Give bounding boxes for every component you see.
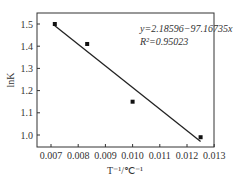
svg-text:0.012: 0.012 xyxy=(176,150,199,161)
data-point xyxy=(53,22,57,26)
svg-text:0.007: 0.007 xyxy=(40,150,63,161)
data-point xyxy=(131,100,135,104)
svg-text:1.5: 1.5 xyxy=(21,19,34,30)
svg-text:0.013: 0.013 xyxy=(203,150,226,161)
svg-text:1.2: 1.2 xyxy=(21,85,34,96)
svg-text:0.011: 0.011 xyxy=(149,150,171,161)
svg-text:1.1: 1.1 xyxy=(21,107,34,118)
svg-text:1.3: 1.3 xyxy=(21,63,34,74)
scatter-chart: 1.01.11.21.31.41.5 0.0070.0080.0090.0100… xyxy=(0,0,239,182)
svg-text:0.008: 0.008 xyxy=(67,150,90,161)
svg-text:1.0: 1.0 xyxy=(21,130,34,141)
svg-text:1.4: 1.4 xyxy=(21,41,34,52)
data-point xyxy=(199,135,203,139)
r-squared-label: R²=0.95023 xyxy=(139,36,188,47)
data-point xyxy=(85,42,89,46)
svg-text:0.009: 0.009 xyxy=(94,150,117,161)
x-axis-label: T⁻¹/℃⁻¹ xyxy=(107,165,143,176)
svg-text:0.010: 0.010 xyxy=(121,150,144,161)
y-axis-label: lnK xyxy=(5,72,16,88)
equation-label: y=2.18596−97.16735x xyxy=(139,23,233,34)
